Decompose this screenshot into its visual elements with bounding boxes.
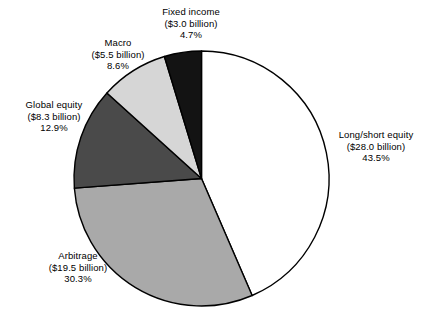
pie-label-arbitrage-value: ($19.5 billion) [22,262,134,274]
pie-label-macro: Macro ($5.5 billion) 8.6% [63,37,173,72]
pie-label-long-short-equity-value: ($28.0 billion) [330,141,422,153]
pie-label-global-equity-name: Global equity [2,99,106,111]
pie-label-long-short-equity-percent: 43.5% [330,152,422,164]
pie-label-long-short-equity-name: Long/short equity [330,129,422,141]
pie-chart-figure: Fixed income ($3.0 billion) 4.7% Macro (… [0,0,423,319]
pie-label-arbitrage-percent: 30.3% [22,273,134,285]
pie-label-fixed-income: Fixed income ($3.0 billion) 4.7% [131,6,251,41]
pie-label-macro-name: Macro [63,37,173,49]
pie-label-macro-percent: 8.6% [63,60,173,72]
pie-label-arbitrage: Arbitrage ($19.5 billion) 30.3% [22,250,134,285]
pie-label-global-equity-value: ($8.3 billion) [2,111,106,123]
pie-label-global-equity: Global equity ($8.3 billion) 12.9% [2,99,106,134]
pie-label-arbitrage-name: Arbitrage [22,250,134,262]
pie-label-global-equity-percent: 12.9% [2,122,106,134]
pie-label-fixed-income-value: ($3.0 billion) [131,18,251,30]
pie-label-macro-value: ($5.5 billion) [63,49,173,61]
pie-label-long-short-equity: Long/short equity ($28.0 billion) 43.5% [330,129,422,164]
pie-label-fixed-income-name: Fixed income [131,6,251,18]
